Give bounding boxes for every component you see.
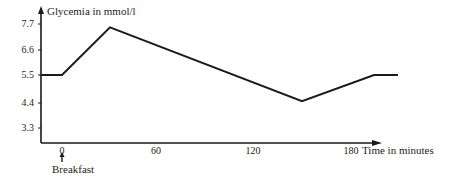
breakfast-annotation: Breakfast	[52, 164, 94, 174]
y-tick-label: 3.3	[4, 123, 34, 133]
x-tick-label: 60	[151, 146, 161, 156]
y-axis-arrow-icon	[38, 6, 44, 14]
y-tick-label: 6.6	[4, 45, 34, 55]
y-axis-label: Glycemia in mmol/l	[47, 6, 136, 16]
glycemia-curve	[41, 27, 398, 101]
x-tick-label: 0	[60, 146, 65, 156]
y-tick-label: 7.7	[4, 19, 34, 29]
x-tick-label: 120	[246, 146, 261, 156]
x-tick-label: 180	[344, 146, 359, 156]
y-tick-label: 4.4	[4, 98, 34, 108]
y-tick-label: 5.5	[4, 70, 34, 80]
x-axis-label: Time in minutes	[362, 145, 434, 155]
